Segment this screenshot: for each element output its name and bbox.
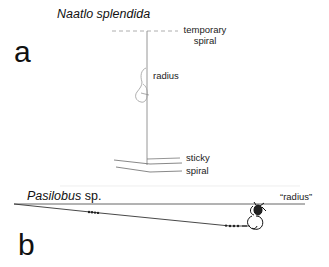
sticky-spiral-line-2 [116, 167, 182, 172]
label-spiral-sticky: spiral [186, 164, 210, 177]
label-spiral-temp: spiral [182, 35, 228, 46]
figure: a Naatlo splendida temporary spiral radi… [0, 0, 329, 267]
sticky-spiral-line-1 [114, 160, 182, 164]
label-temporary: temporary [182, 24, 228, 35]
species-suffix-b: sp. [81, 189, 101, 203]
label-sticky: sticky [186, 151, 210, 164]
panel-letter-a: a [14, 37, 31, 67]
label-radius-a: radius [153, 70, 179, 81]
label-sticky-spiral: sticky spiral [186, 151, 210, 177]
panel-letter-b: b [18, 230, 35, 260]
sticky-thread [147, 158, 180, 159]
species-name-b: Pasilobus sp. [27, 189, 101, 203]
web-illustrations [0, 0, 329, 267]
sticky-line-b [14, 204, 250, 226]
label-temporary-spiral: temporary spiral [182, 24, 228, 46]
species-genus-b: Pasilobus [27, 189, 81, 203]
label-radius-b: “radius” [280, 191, 312, 202]
spider-outline-a [136, 68, 147, 102]
spider-b [242, 202, 266, 229]
species-name-a: Naatlo splendida [57, 7, 150, 21]
